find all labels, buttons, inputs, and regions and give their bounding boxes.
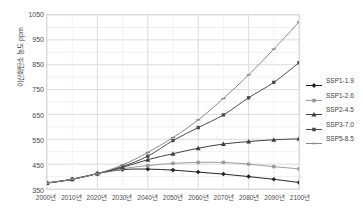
data-point-marker [197, 126, 200, 129]
data-point-marker [312, 98, 316, 102]
y-axis-tick-labels: 3504505506507508509501050 [18, 0, 44, 221]
legend-marker-icon [306, 91, 322, 100]
series-ssp3-7-0 [47, 61, 299, 185]
legend-label: SSP1-2.6 [326, 91, 354, 100]
data-point-marker [222, 161, 225, 164]
data-point-marker [272, 81, 275, 84]
data-point-marker [146, 167, 151, 172]
legend-marker-icon [306, 76, 322, 85]
series-line [47, 162, 299, 183]
chart-legend: SSP1-1.9SSP1-2.6SSP2-4.5SSP3-7.0SSP5-8.5 [306, 76, 362, 143]
data-point-marker [312, 127, 316, 131]
legend-label: SSP3-7.0 [326, 120, 354, 129]
legend-item-ssp1-1-9[interactable]: SSP1-1.9 [306, 76, 362, 85]
x-tick-label: 2040년 [137, 192, 157, 202]
series-ssp1-2-6 [47, 161, 299, 185]
data-point-marker [272, 48, 276, 49]
y-tick-label: 1050 [28, 11, 44, 18]
data-point-marker [171, 168, 176, 173]
y-tick-label: 750 [32, 86, 44, 93]
x-tick-label: 2010년 [61, 192, 81, 202]
legend-item-ssp5-8-5[interactable]: SSP5-8.5 [306, 134, 362, 143]
data-point-marker [146, 155, 149, 158]
data-point-marker [171, 162, 174, 165]
x-axis-tick-labels: 2000년2010년2020년2030년2040년2050년2060년2070년… [46, 192, 300, 214]
x-tick-label: 2080년 [239, 192, 259, 202]
plot-area [46, 14, 300, 190]
legend-label: SSP5-8.5 [326, 134, 354, 143]
data-point-marker [297, 21, 299, 22]
data-point-marker [222, 113, 225, 116]
data-point-marker [247, 74, 251, 75]
data-point-marker [196, 170, 201, 175]
x-tick-label: 2100년 [290, 192, 310, 202]
x-tick-label: 2000년 [36, 192, 56, 202]
y-tick-label: 850 [32, 61, 44, 68]
legend-marker-icon [306, 120, 322, 129]
y-tick-label: 450 [32, 161, 44, 168]
x-tick-label: 2060년 [188, 192, 208, 202]
x-tick-label: 2070년 [214, 192, 234, 202]
data-point-marker [196, 119, 200, 120]
y-tick-label: 550 [32, 136, 44, 143]
co2-concentration-chart: 이산화탄소 농도 ppm 3504505506507508509501050 2… [0, 0, 363, 221]
data-point-marker [146, 164, 149, 167]
data-point-marker [297, 167, 299, 170]
data-point-marker [221, 98, 225, 99]
data-point-marker [272, 177, 277, 182]
x-tick-label: 2090년 [264, 192, 284, 202]
data-point-marker [297, 180, 299, 185]
data-point-marker [146, 152, 150, 153]
y-tick-label: 650 [32, 111, 44, 118]
x-tick-label: 2020년 [87, 192, 107, 202]
data-series-layer [47, 15, 299, 189]
legend-marker-icon [306, 105, 322, 114]
data-point-marker [121, 164, 125, 165]
data-point-marker [247, 96, 250, 99]
legend-item-ssp3-7-0[interactable]: SSP3-7.0 [306, 120, 362, 129]
legend-marker-icon [306, 134, 322, 143]
legend-label: SSP2-4.5 [326, 105, 354, 114]
y-tick-label: 950 [32, 36, 44, 43]
data-point-marker [95, 173, 99, 174]
data-point-marker [197, 161, 200, 164]
legend-item-ssp1-2-6[interactable]: SSP1-2.6 [306, 91, 362, 100]
data-point-marker [297, 61, 299, 64]
data-point-marker [70, 179, 74, 180]
series-line [47, 22, 299, 183]
data-point-marker [247, 162, 250, 165]
data-point-marker [171, 139, 174, 142]
x-tick-label: 2050년 [163, 192, 183, 202]
data-point-marker [312, 83, 317, 88]
data-point-marker [312, 143, 316, 144]
data-point-marker [272, 165, 275, 168]
x-tick-label: 2030년 [112, 192, 132, 202]
legend-item-ssp2-4-5[interactable]: SSP2-4.5 [306, 105, 362, 114]
data-point-marker [246, 174, 251, 179]
data-point-marker [47, 182, 49, 183]
legend-label: SSP1-1.9 [326, 76, 354, 85]
series-ssp5-8-5 [47, 21, 299, 183]
data-point-marker [171, 137, 175, 138]
data-point-marker [221, 172, 226, 177]
